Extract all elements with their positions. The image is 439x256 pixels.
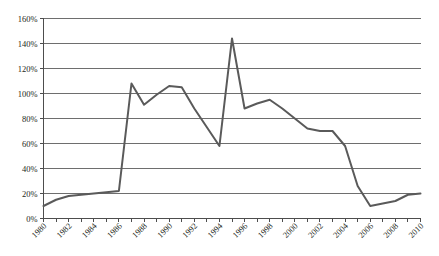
x-tick-label: 2008 (381, 221, 400, 240)
chart-canvas: 0%20%40%60%80%100%120%140%160% 198019821… (0, 0, 439, 256)
series-line (44, 39, 421, 207)
x-tick-label: 2010 (406, 221, 425, 240)
x-tick-label: 1998 (256, 221, 275, 240)
y-tick-label: 0% (26, 214, 37, 224)
x-axis-tick-labels: 1980198219841986198819901992199419961998… (29, 220, 425, 240)
y-tick-label: 100% (18, 89, 38, 99)
data-series-layer (44, 39, 421, 207)
y-tick-label: 80% (22, 114, 38, 124)
y-tick-label: 20% (22, 189, 38, 199)
x-tick-label: 1986 (105, 221, 124, 240)
x-tick-label: 2004 (331, 220, 351, 240)
y-tick-label: 140% (18, 39, 38, 49)
y-axis-tick-labels: 0%20%40%60%80%100%120%140%160% (18, 14, 38, 224)
x-tick-label: 1980 (29, 221, 48, 240)
x-tick-label: 1994 (205, 220, 225, 240)
y-tick-label: 120% (18, 64, 38, 74)
y-tick-label: 160% (18, 14, 38, 24)
x-tick-label: 2006 (356, 221, 375, 240)
x-tick-label: 1982 (54, 221, 73, 240)
x-tick-label: 1992 (180, 221, 199, 240)
x-tick-label: 2002 (306, 221, 325, 240)
line-chart: 0%20%40%60%80%100%120%140%160% 198019821… (0, 0, 439, 256)
x-tick-label: 2000 (281, 221, 300, 240)
y-tick-label: 40% (22, 164, 38, 174)
x-tick-label: 1988 (130, 221, 149, 240)
y-tick-label: 60% (22, 139, 38, 149)
x-tick-label: 1990 (155, 221, 174, 240)
x-tick-label: 1996 (230, 221, 249, 240)
x-tick-label: 1984 (80, 220, 100, 240)
